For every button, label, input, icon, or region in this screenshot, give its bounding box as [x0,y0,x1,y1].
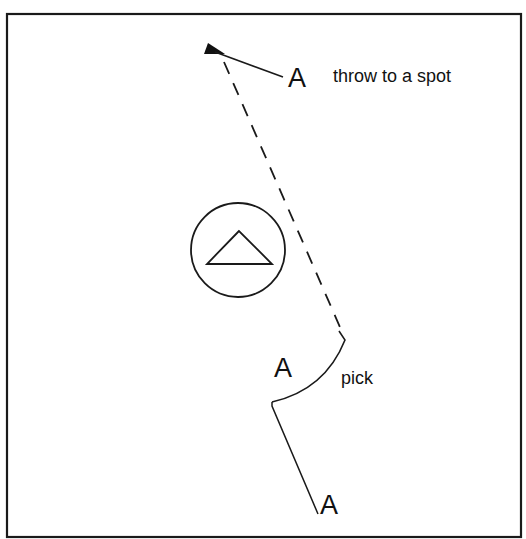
player-top-label: A [288,65,306,92]
field-border [7,14,521,537]
runner-path [272,402,318,514]
player-middle-label: A [274,355,292,382]
thrower-marker-icon [204,43,283,77]
defender-icon [191,203,285,297]
throw-note-label: throw to a spot [333,67,451,85]
pick-note-label: pick [341,369,373,387]
throw-path-dashed [224,62,343,334]
play-diagram: A throw to a spot A pick A [0,0,526,539]
player-bottom-label: A [320,492,338,519]
